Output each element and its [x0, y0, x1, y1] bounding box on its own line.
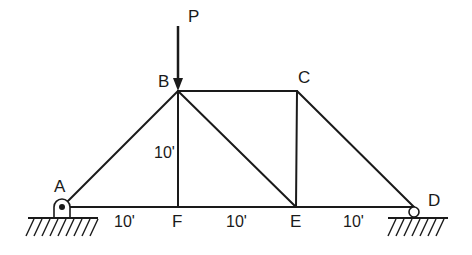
load-arrow-icon: [173, 26, 183, 91]
joint-label-E: E: [290, 212, 301, 231]
truss-diagram: P A B C D: [0, 0, 472, 255]
dim-height-BF: 10': [154, 144, 175, 161]
joint-label-A: A: [54, 177, 66, 196]
truss-members: [62, 91, 414, 207]
dim-span-ED: 10': [343, 213, 364, 230]
member-CD: [297, 91, 414, 207]
joint-label-B: B: [158, 72, 169, 91]
dim-span-FE: 10': [226, 213, 247, 230]
load-label: P: [188, 7, 199, 26]
roller-support-icon: [388, 207, 448, 236]
member-BE: [178, 91, 296, 207]
member-CE: [296, 91, 297, 207]
joint-label-C: C: [298, 68, 310, 87]
pin-support-icon: [26, 199, 98, 236]
joint-label-F: F: [172, 212, 182, 231]
dim-span-AF: 10': [114, 213, 135, 230]
joint-label-D: D: [428, 191, 440, 210]
